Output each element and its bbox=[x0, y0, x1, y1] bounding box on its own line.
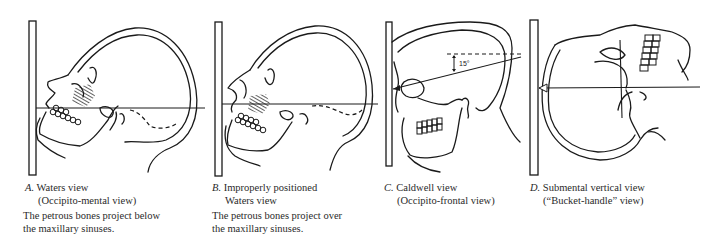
angle-label-c: 15° bbox=[459, 60, 470, 67]
caption-b: B. Improperly positioned Waters view The… bbox=[212, 181, 342, 235]
film-plate-d bbox=[530, 20, 538, 175]
skull-positioning-illustrations: 15° bbox=[0, 0, 725, 180]
panel-b-drawing bbox=[215, 22, 378, 176]
caption-a-title: Waters view bbox=[36, 182, 88, 193]
caption-d: D. Submental vertical view (“Bucket-hand… bbox=[530, 181, 645, 207]
caption-a-subtitle: (Occipito-mental view) bbox=[25, 194, 160, 207]
caption-b-description-1: The petrous bones project over bbox=[212, 210, 342, 221]
caption-c-letter: C. bbox=[384, 182, 394, 193]
caption-d-letter: D. bbox=[530, 182, 540, 193]
caption-d-subtitle: (“Bucket-handle” view) bbox=[530, 194, 645, 207]
caption-a-letter: A. bbox=[25, 182, 34, 193]
caption-d-title: Submental vertical view bbox=[543, 182, 645, 193]
caption-c-title: Caldwell view bbox=[396, 182, 457, 193]
panel-d-drawing bbox=[530, 20, 700, 175]
caption-c-subtitle: (Occipito-frontal view) bbox=[384, 194, 495, 207]
central-ray-d bbox=[539, 87, 700, 88]
panel-c-drawing: 15° bbox=[386, 22, 523, 172]
caption-b-subtitle: Waters view bbox=[212, 194, 342, 207]
film-plate-b bbox=[215, 22, 222, 176]
caption-a-description-1: The petrous bones project below bbox=[23, 210, 160, 221]
caption-c: C. Caldwell view (Occipito-frontal view) bbox=[384, 181, 495, 207]
caption-b-description-2: the maxillary sinuses. bbox=[212, 223, 303, 234]
film-plate-c bbox=[386, 22, 392, 166]
panel-a-drawing bbox=[29, 21, 205, 175]
film-plate-a bbox=[29, 21, 36, 175]
caption-a: A. Waters view (Occipito-mental view) Th… bbox=[25, 181, 160, 235]
caption-b-letter: B. bbox=[212, 182, 221, 193]
caption-a-description-2: the maxillary sinuses. bbox=[23, 223, 114, 234]
caption-b-title: Improperly positioned bbox=[224, 182, 318, 193]
